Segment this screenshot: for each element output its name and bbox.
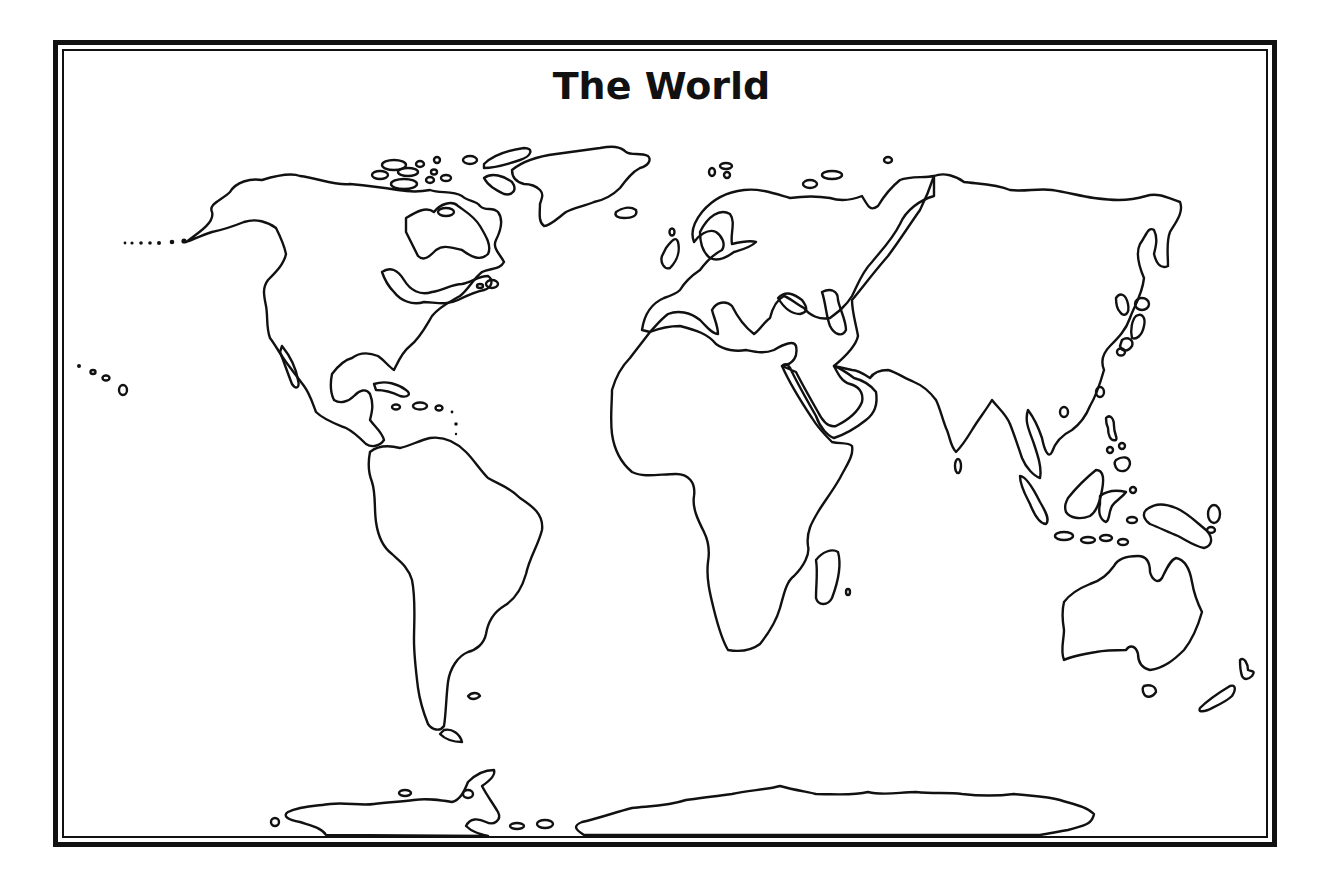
aleutian-islands xyxy=(124,238,187,245)
australia-outline xyxy=(1062,556,1202,697)
north-america-outline xyxy=(186,174,504,446)
africa-outline xyxy=(611,326,852,651)
greenland-outline xyxy=(512,147,650,226)
europe-outline xyxy=(642,157,934,334)
asia-outline xyxy=(834,174,1181,478)
world-outline-map xyxy=(0,0,1323,889)
south-america-outline xyxy=(369,438,543,742)
japan-outline xyxy=(1117,298,1149,356)
hawaii-islands xyxy=(77,364,127,395)
caribbean-islands xyxy=(374,382,458,435)
antarctica-outline xyxy=(271,770,1094,836)
arctic-islands-outline xyxy=(372,148,530,288)
new-zealand-outline xyxy=(1199,659,1253,711)
arabian-peninsula-outline xyxy=(782,364,877,438)
